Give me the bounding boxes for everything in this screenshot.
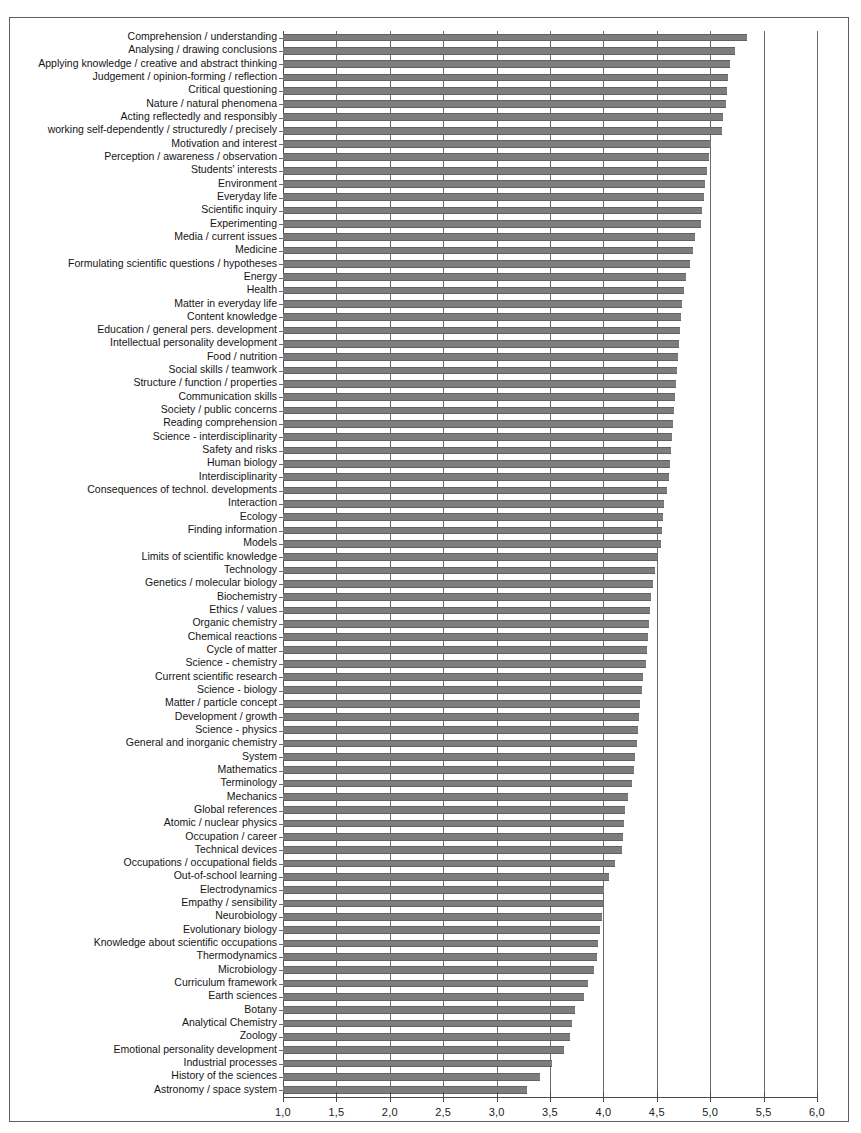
category-label: Students' interests	[191, 163, 277, 176]
category-label: Motivation and interest	[171, 137, 277, 150]
x-tick	[390, 1092, 391, 1102]
bar-row: Energy	[283, 271, 817, 284]
category-label: Matter / particle concept	[165, 696, 277, 709]
bar	[283, 433, 672, 441]
category-label: Genetics / molecular biology	[145, 576, 277, 589]
bar	[283, 487, 667, 495]
x-tick	[550, 1092, 551, 1102]
bar-row: Thermodynamics	[283, 950, 817, 963]
bar	[283, 353, 678, 361]
category-label: Terminology	[220, 776, 277, 789]
bar-row: Interdisciplinarity	[283, 471, 817, 484]
bar	[283, 833, 623, 841]
bar-row: Limits of scientific knowledge	[283, 551, 817, 564]
bar	[283, 247, 693, 255]
bar-row: Health	[283, 284, 817, 297]
category-label: Biochemistry	[217, 590, 277, 603]
category-label: Analysing / drawing conclusions	[128, 43, 277, 56]
bar-row: Motivation and interest	[283, 138, 817, 151]
bar-row: Out-of-school learning	[283, 870, 817, 883]
bar-row: Structure / function / properties	[283, 377, 817, 390]
bar	[283, 420, 673, 428]
bar-row: Safety and risks	[283, 444, 817, 457]
bar-row: Evolutionary biology	[283, 924, 817, 937]
category-label: Mathematics	[217, 763, 277, 776]
bar-row: Everyday life	[283, 191, 817, 204]
category-label: Matter in everyday life	[174, 297, 277, 310]
bar	[283, 100, 726, 108]
bar-row: Comprehension / understanding	[283, 31, 817, 44]
category-label: Formulating scientific questions / hypot…	[68, 257, 277, 270]
bar	[283, 593, 651, 601]
bar	[283, 1046, 564, 1054]
horizontal-bar-chart: Comprehension / understandingAnalysing /…	[0, 0, 861, 1133]
category-label: Medicine	[235, 243, 277, 256]
bar-row: Acting reflectedly and responsibly	[283, 111, 817, 124]
bar-row: Organic chemistry	[283, 617, 817, 630]
bar-row: Technology	[283, 564, 817, 577]
category-label: Education / general pers. development	[97, 323, 277, 336]
bar	[283, 1073, 540, 1081]
bar-row: Neurobiology	[283, 910, 817, 923]
x-tick-label: 4,5	[637, 1106, 677, 1118]
category-label: Critical questioning	[188, 83, 277, 96]
bar-row: Ethics / values	[283, 604, 817, 617]
bar	[283, 34, 747, 42]
x-tick-label: 1,0	[263, 1106, 303, 1118]
bar	[283, 766, 634, 774]
category-label: Ethics / values	[209, 603, 277, 616]
category-label: General and inorganic chemistry	[126, 736, 277, 749]
category-label: Society / public concerns	[161, 403, 277, 416]
bar-row: Zoology	[283, 1030, 817, 1043]
bar	[283, 1020, 572, 1028]
category-label: Social skills / teamwork	[168, 363, 277, 376]
x-tick-label: 3,0	[477, 1106, 517, 1118]
bar-row: Biochemistry	[283, 591, 817, 604]
category-label: Analytical Chemistry	[182, 1016, 277, 1029]
bar-row: Curriculum framework	[283, 977, 817, 990]
category-label: Food / nutrition	[207, 350, 277, 363]
bar-row: Mechanics	[283, 791, 817, 804]
bar	[283, 74, 728, 82]
bar	[283, 607, 650, 615]
bar-row: Botany	[283, 1004, 817, 1017]
bar	[283, 393, 675, 401]
bar-row: Chemical reactions	[283, 631, 817, 644]
bar-row: Human biology	[283, 457, 817, 470]
bar	[283, 140, 711, 148]
category-label: working self-dependently / structuredly …	[48, 123, 277, 136]
category-label: Mechanics	[227, 790, 277, 803]
bar	[283, 367, 677, 375]
category-label: Industrial processes	[184, 1056, 277, 1069]
category-label: Electrodynamics	[200, 883, 277, 896]
bar	[283, 873, 609, 881]
bar-row: Social skills / teamwork	[283, 364, 817, 377]
bar-row: Analysing / drawing conclusions	[283, 44, 817, 57]
x-tick	[764, 1092, 765, 1102]
bar-row: Mathematics	[283, 764, 817, 777]
bar	[283, 753, 635, 761]
bar	[283, 1060, 552, 1068]
bar-row: Knowledge about scientific occupations	[283, 937, 817, 950]
bar-row: Students' interests	[283, 164, 817, 177]
category-label: Judgement / opinion-forming / reflection	[93, 70, 277, 83]
category-label: Scientific inquiry	[201, 203, 277, 216]
category-label: Acting reflectedly and responsibly	[121, 110, 277, 123]
bar-row: Science - physics	[283, 724, 817, 737]
bar	[283, 846, 622, 854]
category-label: System	[242, 750, 277, 763]
category-label: Earth sciences	[208, 989, 277, 1002]
bar	[283, 567, 655, 575]
bar	[283, 167, 707, 175]
x-tick-label: 2,5	[423, 1106, 463, 1118]
x-tick-label: 2,0	[370, 1106, 410, 1118]
bar	[283, 926, 600, 934]
bar-row: Occupations / occupational fields	[283, 857, 817, 870]
bar-row: Experimenting	[283, 218, 817, 231]
bar	[283, 313, 681, 321]
bar-row: Reading comprehension	[283, 417, 817, 430]
x-tick	[336, 1092, 337, 1102]
bar	[283, 700, 640, 708]
bar-row: Microbiology	[283, 964, 817, 977]
bar-row: Communication skills	[283, 391, 817, 404]
